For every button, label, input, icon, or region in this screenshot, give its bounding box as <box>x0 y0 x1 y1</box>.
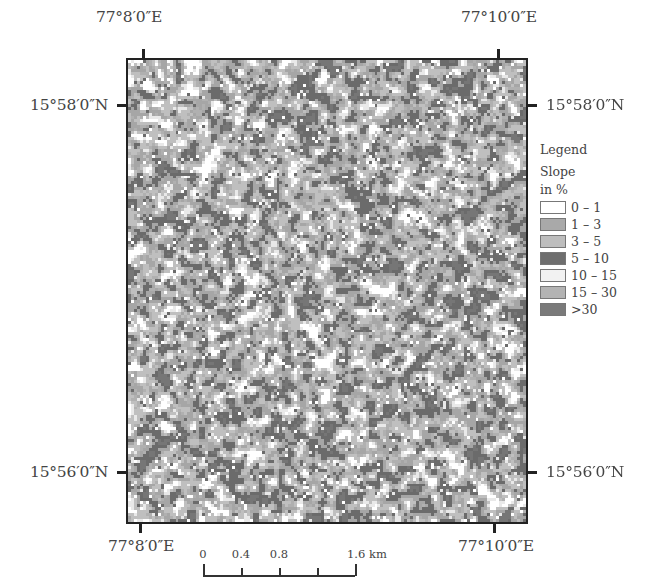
legend-swatch <box>540 269 566 282</box>
legend-label: >30 <box>571 302 597 317</box>
legend-label: 15 – 30 <box>571 285 617 300</box>
scale-label: 0.8 <box>270 547 288 561</box>
legend-swatch <box>540 218 566 231</box>
scale-tick <box>355 564 357 576</box>
scale-tick <box>203 564 205 576</box>
scale-bar: 00.40.81.6 km <box>198 547 358 577</box>
legend-swatch <box>540 235 566 248</box>
legend-item: 5 – 10 <box>540 250 617 267</box>
legend-item: 10 – 15 <box>540 267 617 284</box>
legend-item: 15 – 30 <box>540 284 617 301</box>
legend-label: 5 – 10 <box>571 251 609 266</box>
scale-label: 0.4 <box>232 547 250 561</box>
scale-label: 0 <box>199 547 206 561</box>
legend-item: 1 – 3 <box>540 216 617 233</box>
tick-bottom-right <box>493 524 496 533</box>
scale-tick <box>279 568 281 576</box>
legend-swatch <box>540 303 566 316</box>
slope-raster-canvas <box>128 60 526 522</box>
legend-items: 0 – 11 – 33 – 55 – 1010 – 1515 – 30>30 <box>540 199 617 318</box>
scale-label: 1.6 km <box>347 547 387 561</box>
lat-label-left-top: 15°58′0″N <box>30 96 108 114</box>
tick-right-top <box>528 104 537 107</box>
legend-label: 3 – 5 <box>571 234 601 249</box>
lon-label-top-right: 77°10′0″E <box>461 8 537 26</box>
scale-tick <box>317 568 319 576</box>
legend-swatch <box>540 252 566 265</box>
legend-label: 1 – 3 <box>571 217 601 232</box>
legend-title: Legend <box>540 141 617 159</box>
tick-bottom-left <box>139 524 142 533</box>
lat-label-right-top: 15°58′0″N <box>546 96 624 114</box>
tick-left-bottom <box>117 471 126 474</box>
legend-item: >30 <box>540 301 617 318</box>
legend-item: 0 – 1 <box>540 199 617 216</box>
slope-map-raster <box>126 58 528 524</box>
legend-item: 3 – 5 <box>540 233 617 250</box>
legend-subtitle-line1: Slope <box>540 163 617 181</box>
legend-subtitle-line2: in % <box>540 181 617 199</box>
legend-swatch <box>540 201 566 214</box>
scale-tick <box>241 568 243 576</box>
tick-top-right <box>497 49 500 58</box>
lat-label-right-bottom: 15°56′0″N <box>546 463 624 481</box>
tick-left-top <box>117 104 126 107</box>
tick-right-bottom <box>528 471 537 474</box>
legend-swatch <box>540 286 566 299</box>
legend-label: 10 – 15 <box>571 268 617 283</box>
lat-label-left-bottom: 15°56′0″N <box>30 463 108 481</box>
lon-label-bottom-right: 77°10′0″E <box>458 537 534 555</box>
legend-label: 0 – 1 <box>571 200 601 215</box>
lon-label-bottom-left: 77°8′0″E <box>108 537 174 555</box>
legend: Legend Slope in % 0 – 11 – 33 – 55 – 101… <box>540 141 617 318</box>
lon-label-top-left: 77°8′0″E <box>96 8 162 26</box>
tick-top-left <box>142 49 145 58</box>
